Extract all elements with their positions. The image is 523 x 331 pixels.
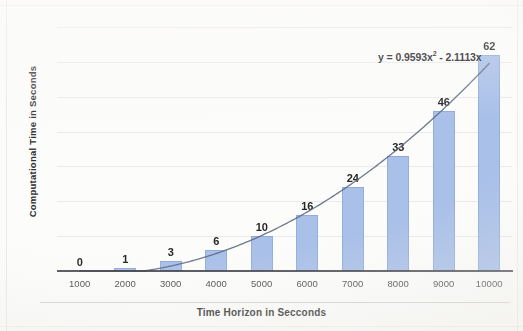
gridline xyxy=(57,27,512,28)
bar xyxy=(296,215,318,271)
x-axis-title-rule xyxy=(40,302,510,303)
x-tick-label: 6000 xyxy=(284,278,330,289)
x-axis-line xyxy=(57,270,513,272)
bar xyxy=(251,236,273,271)
x-tick-label: 3000 xyxy=(148,278,194,289)
x-tick-label: 7000 xyxy=(330,278,376,289)
bar-value-label: 46 xyxy=(424,96,464,108)
x-axis-title: Time Horizon in Secconds xyxy=(0,307,523,318)
equation-base: y = 0.9593x xyxy=(378,51,433,63)
bar-value-label: 0 xyxy=(60,256,100,268)
bar xyxy=(205,250,227,271)
x-tick-label: 1000 xyxy=(57,278,103,289)
x-tick-label: 5000 xyxy=(239,278,285,289)
plot-area: 0136101624334662 xyxy=(57,27,512,271)
x-tick-label: 2000 xyxy=(102,278,148,289)
bar-value-label: 10 xyxy=(242,221,282,233)
x-tick-label: 4000 xyxy=(193,278,239,289)
x-tick-label: 8000 xyxy=(375,278,421,289)
bar-value-label: 1 xyxy=(105,253,145,265)
bar-value-label: 6 xyxy=(196,235,236,247)
trendline-equation-label: y = 0.9593x2 - 2.1113x xyxy=(378,50,482,63)
scan-edge-bottom xyxy=(0,326,523,327)
bar xyxy=(433,111,455,271)
x-tick-label: 10000 xyxy=(466,278,512,289)
bar-value-label: 33 xyxy=(378,141,418,153)
y-axis-title: Computational Time in Seconds xyxy=(27,47,38,237)
chart-scan-canvas: Computational Time in Seconds 0136101624… xyxy=(0,0,523,331)
bar xyxy=(342,187,364,271)
equation-tail: - 2.1113x xyxy=(436,51,481,63)
bar-value-label: 3 xyxy=(151,246,191,258)
scan-edge-right xyxy=(517,0,518,331)
bar-value-label: 24 xyxy=(333,172,373,184)
bar xyxy=(387,156,409,271)
scan-edge-top xyxy=(0,5,523,6)
bar-value-label: 16 xyxy=(287,200,327,212)
bar xyxy=(478,55,500,271)
x-tick-label: 9000 xyxy=(421,278,467,289)
scan-edge-left xyxy=(6,0,7,331)
